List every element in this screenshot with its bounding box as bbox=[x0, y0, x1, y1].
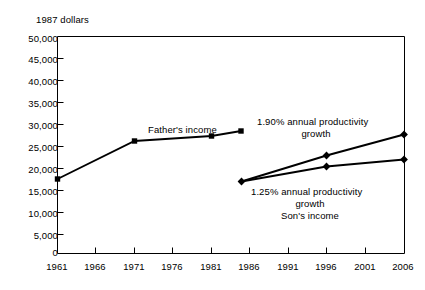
data-point-marker bbox=[323, 152, 331, 160]
axis-frame-top-right bbox=[58, 37, 405, 254]
series-low-productivity-growth bbox=[242, 156, 408, 182]
data-point-marker bbox=[400, 156, 408, 164]
data-point-marker bbox=[238, 128, 243, 133]
data-point-marker bbox=[55, 176, 60, 181]
x-tick-marks bbox=[96, 248, 366, 254]
axis-spines bbox=[58, 37, 405, 254]
data-point-marker bbox=[400, 131, 408, 139]
plot-area bbox=[0, 0, 425, 290]
series-fathers-income bbox=[55, 128, 244, 181]
data-point-marker bbox=[132, 138, 137, 143]
data-point-marker bbox=[209, 133, 214, 138]
y-tick-marks bbox=[58, 59, 64, 235]
data-point-marker bbox=[323, 163, 331, 171]
income-productivity-chart: 1987 dollars 50,000 45,000 40,000 35,000… bbox=[0, 0, 425, 290]
